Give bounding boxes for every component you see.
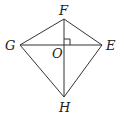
label-e: E [105, 38, 116, 53]
label-h: H [58, 100, 71, 115]
label-o: O [52, 46, 63, 61]
kite-diagram: F G E O H [0, 0, 124, 120]
segment-fg [20, 19, 64, 45]
right-angle-mark [64, 39, 70, 45]
label-g: G [5, 38, 15, 53]
label-f: F [58, 3, 69, 18]
segment-eh [64, 45, 102, 97]
